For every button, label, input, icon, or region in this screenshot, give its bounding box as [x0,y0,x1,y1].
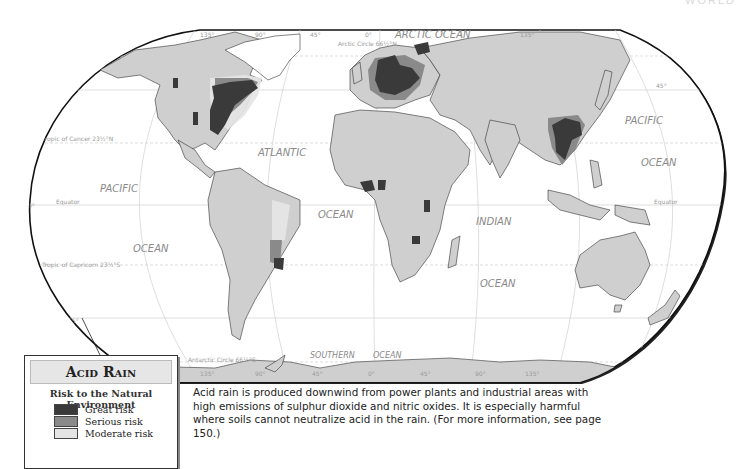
legend-label: Great risk [85,404,133,415]
svg-text:45°: 45° [312,370,323,377]
svg-text:135°: 135° [200,370,214,377]
svg-text:45°: 45° [310,31,321,38]
svg-text:ARCTIC OCEAN: ARCTIC OCEAN [394,29,471,40]
svg-text:135°: 135° [200,31,214,38]
legend-item-moderate-risk: Moderate risk [54,427,153,439]
svg-text:OCEAN: OCEAN [373,351,401,360]
svg-text:ATLANTIC: ATLANTIC [257,147,306,158]
svg-text:90°: 90° [475,370,486,377]
svg-text:45°: 45° [656,82,667,89]
svg-text:135°: 135° [520,31,534,38]
svg-text:Tropic of Cancer 23½°N: Tropic of Cancer 23½°N [41,135,113,143]
svg-text:Antarctic Circle 66½°S: Antarctic Circle 66½°S [188,356,256,363]
svg-text:0°: 0° [365,31,372,38]
legend-label: Serious risk [85,416,143,427]
svg-text:Arctic Circle 66½°N: Arctic Circle 66½°N [338,40,397,47]
svg-text:INDIAN: INDIAN [476,216,512,227]
legend-item-serious-risk: Serious risk [54,415,143,427]
svg-text:OCEAN: OCEAN [318,209,354,220]
svg-text:0°: 0° [730,199,736,206]
swatch-serious-risk [54,416,78,427]
svg-text:135°: 135° [525,370,539,377]
svg-text:OCEAN: OCEAN [133,243,169,254]
svg-text:PACIFIC: PACIFIC [625,115,663,126]
swatch-great-risk [54,404,78,415]
swatch-moderate-risk [54,428,78,439]
map-legend: Acid Rain Risk to the Natural Environmen… [24,355,178,469]
svg-text:Tropic of Capricorn 23½°S: Tropic of Capricorn 23½°S [41,261,120,269]
svg-text:90°: 90° [255,31,266,38]
svg-text:Equator: Equator [56,198,80,206]
svg-text:0°: 0° [368,370,375,377]
svg-text:OCEAN: OCEAN [480,278,516,289]
svg-text:90°: 90° [255,370,266,377]
map-caption: Acid rain is produced downwind from powe… [193,386,613,440]
legend-title: Acid Rain [30,360,172,384]
legend-item-great-risk: Great risk [54,403,133,415]
svg-text:OCEAN: OCEAN [641,157,677,168]
svg-text:Equator: Equator [654,198,678,206]
svg-text:45°: 45° [420,370,431,377]
legend-label: Moderate risk [85,428,153,439]
risk-great-brazil [274,258,284,270]
svg-text:SOUTHERN: SOUTHERN [310,351,355,360]
svg-text:PACIFIC: PACIFIC [100,183,138,194]
